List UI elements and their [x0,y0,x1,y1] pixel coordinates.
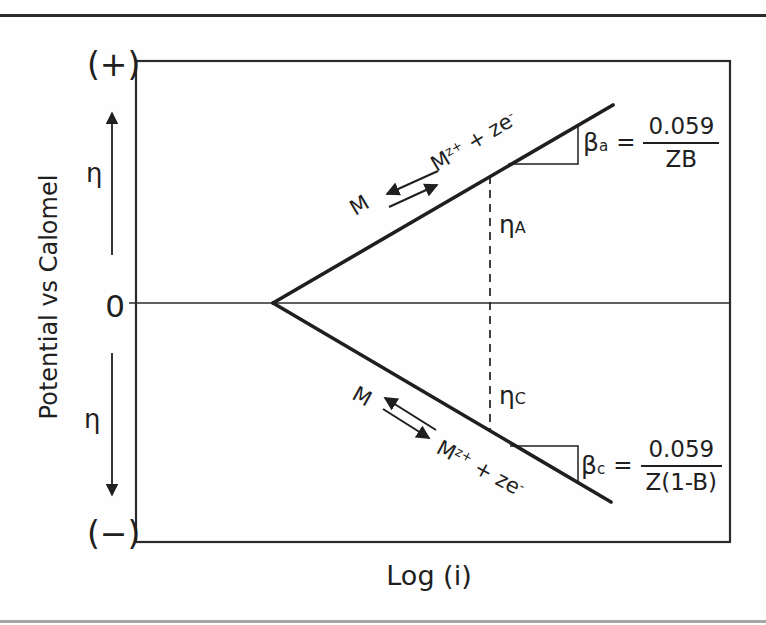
beta-a-fraction: 0.059 ZB [643,112,719,173]
anodic-overpotential-label: ηA [499,212,526,237]
zero-tick-label: 0 [100,291,130,322]
anodic-branch-curve [273,105,613,303]
anodic-overpotential-symbol: η [499,210,515,239]
anodic-equilibrium-forward-arrow-icon [389,185,437,207]
beta-c-numerator: 0.059 [643,435,719,465]
eta-lower-label: η [84,406,100,432]
positive-terminal-label: (+) [87,48,140,81]
x-axis-label: Log (i) [386,562,472,589]
beta-a-symbol: βa [583,130,608,155]
cathodic-overpotential-symbol: η [499,381,515,410]
eta-upper-label: η [86,160,102,186]
beta-c-symbol: βc [581,453,605,478]
negative-terminal-label: (−) [87,517,140,550]
beta-a-numerator: 0.059 [643,112,719,142]
y-axis-label: Potential vs Calomel [37,172,69,422]
cathodic-overpotential-subscript: C [515,389,526,408]
book-figure-page: (+) (−) 0 η η Potential vs Calomel Log (… [0,0,766,625]
beta-a-equals: = [616,131,635,154]
beta-c-denominator: Z(1-B) [641,465,723,496]
anodic-equilibrium-backward-arrow-icon [387,171,438,194]
anodic-tafel-slope-equation: βa = 0.059 ZB [583,112,719,173]
beta-a-denominator: ZB [643,142,719,173]
beta-c-fraction: 0.059 Z(1-B) [641,435,723,496]
cathodic-branch-curve [273,303,611,502]
cathodic-tafel-slope-equation: βc = 0.059 Z(1-B) [581,435,722,496]
cathodic-equilibrium-forward-arrow-icon [383,409,429,438]
anodic-overpotential-subscript: A [515,218,526,237]
beta-c-equals: = [613,454,632,477]
cathodic-overpotential-label: ηC [499,383,526,408]
